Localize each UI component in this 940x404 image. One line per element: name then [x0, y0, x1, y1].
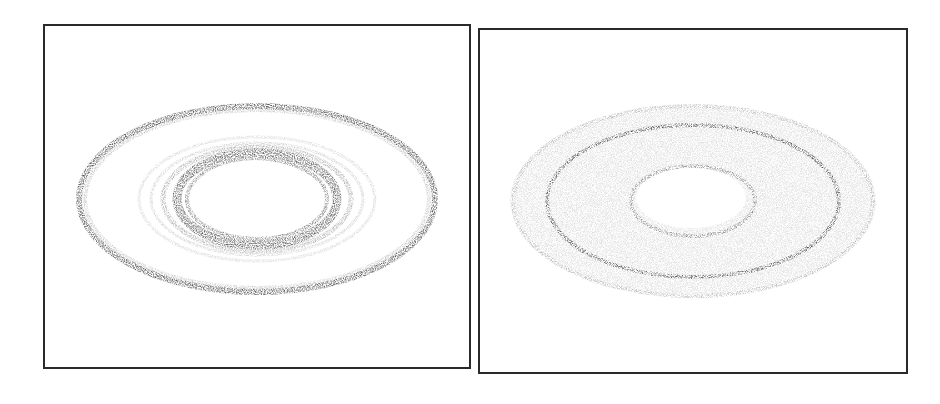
panel-left-frame	[43, 24, 471, 369]
panel-right-frame	[478, 28, 908, 374]
